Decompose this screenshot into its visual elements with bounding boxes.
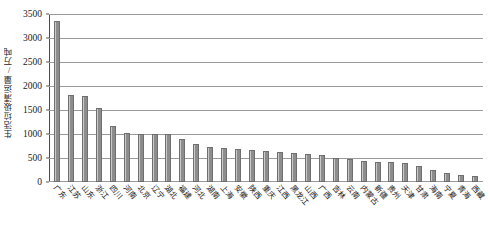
bar[interactable] (207, 147, 213, 182)
bar-slot (329, 14, 343, 182)
x-label-slot: 广东 (50, 183, 64, 238)
bar[interactable] (430, 170, 436, 182)
x-label-slot: 天津 (398, 183, 412, 238)
bar[interactable] (444, 173, 450, 182)
bar[interactable] (124, 133, 130, 182)
bar[interactable] (179, 139, 185, 182)
bar-slot (357, 14, 371, 182)
y-tick-label: 500 (28, 153, 42, 163)
x-label-slot: 黑龙江 (287, 183, 301, 238)
bar[interactable] (249, 150, 255, 182)
bar-slot (412, 14, 426, 182)
bar-slot (106, 14, 120, 182)
bar[interactable] (165, 134, 171, 182)
bar-slot (398, 14, 412, 182)
x-label-slot: 安徽 (231, 183, 245, 238)
x-label-slot: 山西 (301, 183, 315, 238)
bar[interactable] (277, 152, 283, 182)
bar-slot (426, 14, 440, 182)
bar[interactable] (263, 151, 269, 182)
bar-slot (92, 14, 106, 182)
bar-slot (217, 14, 231, 182)
bar-slot (315, 14, 329, 182)
bar[interactable] (138, 134, 144, 182)
x-label-slot: 辽宁 (148, 183, 162, 238)
bar[interactable] (333, 158, 339, 182)
y-tick-label: 1000 (23, 129, 42, 139)
x-label-slot: 福建 (175, 183, 189, 238)
y-tick-label: 0 (37, 177, 42, 187)
bar[interactable] (96, 108, 102, 182)
bar-slot (134, 14, 148, 182)
x-label-slot: 陕西 (245, 183, 259, 238)
bar-slot (50, 14, 64, 182)
x-label-slot: 河南 (120, 183, 134, 238)
x-axis-category-labels: 广东江苏山东浙江四川河南北京辽宁湖北福建河北湖南上海安徽陕西重庆江西黑龙江山西广… (49, 183, 483, 238)
bar[interactable] (291, 153, 297, 182)
bar[interactable] (68, 95, 74, 182)
bar-slot (440, 14, 454, 182)
bar-slot (148, 14, 162, 182)
bar[interactable] (305, 154, 311, 182)
bar[interactable] (416, 166, 422, 182)
x-label-slot: 广西 (315, 183, 329, 238)
bar[interactable] (319, 155, 325, 182)
bar[interactable] (347, 159, 353, 182)
bar[interactable] (375, 162, 381, 182)
y-tick-label: 3000 (23, 33, 42, 43)
bar-slot (301, 14, 315, 182)
bar-slot (78, 14, 92, 182)
bar[interactable] (152, 134, 158, 182)
bar-slot (371, 14, 385, 182)
bar[interactable] (402, 163, 408, 182)
x-label-slot: 湖北 (162, 183, 176, 238)
bar[interactable] (458, 175, 464, 182)
bar-slot (231, 14, 245, 182)
y-tick-label: 1500 (23, 105, 42, 115)
y-tick-label: 3500 (23, 9, 42, 19)
x-label-slot: 内蒙古 (357, 183, 371, 238)
x-label-slot: 重庆 (259, 183, 273, 238)
x-label-slot: 新疆 (371, 183, 385, 238)
bar-slot (120, 14, 134, 182)
bar[interactable] (193, 144, 199, 182)
bar[interactable] (221, 148, 227, 182)
bar-slot (343, 14, 357, 182)
y-axis-ticks: 0500100015002000250030003500 (14, 0, 46, 182)
bar-slot (64, 14, 78, 182)
bar-slot (468, 14, 482, 182)
x-label-slot: 浙江 (92, 183, 106, 238)
bar[interactable] (82, 96, 88, 182)
bar[interactable] (361, 161, 367, 182)
bar[interactable] (235, 149, 241, 182)
x-label-slot: 贵州 (385, 183, 399, 238)
bar[interactable] (388, 162, 394, 182)
bar-slot (454, 14, 468, 182)
bar-slot (287, 14, 301, 182)
bar-slot (245, 14, 259, 182)
bar-slot (259, 14, 273, 182)
bar-slot (385, 14, 399, 182)
bar[interactable] (54, 21, 60, 182)
bar-slot (175, 14, 189, 182)
x-label-slot: 北京 (134, 183, 148, 238)
x-label-slot: 甘肃 (412, 183, 426, 238)
y-tick-label: 2500 (23, 57, 42, 67)
bar[interactable] (472, 176, 478, 182)
plot-area (49, 14, 483, 182)
bar-slot (273, 14, 287, 182)
x-label-slot: 江苏 (64, 183, 78, 238)
bar-series (49, 14, 483, 182)
x-label-slot: 宁夏 (440, 183, 454, 238)
bar[interactable] (110, 126, 116, 182)
bar-chart: 生活垃圾清运量/万吨 0500100015002000250030003500 … (0, 0, 490, 238)
bar-slot (203, 14, 217, 182)
x-label-slot: 吉林 (329, 183, 343, 238)
bar-slot (162, 14, 176, 182)
x-label-slot: 西藏 (468, 183, 482, 238)
bar-slot (189, 14, 203, 182)
x-label-slot: 青海 (454, 183, 468, 238)
x-label-slot: 海南 (426, 183, 440, 238)
x-label-slot: 上海 (217, 183, 231, 238)
x-label-slot: 湖南 (203, 183, 217, 238)
